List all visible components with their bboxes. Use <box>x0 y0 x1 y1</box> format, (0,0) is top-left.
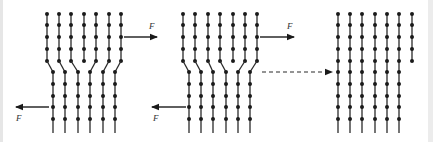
atom-dot <box>336 117 340 121</box>
atom-dot <box>336 82 340 86</box>
atom-dot <box>76 105 80 109</box>
atom-dot <box>181 47 185 51</box>
atom-dot <box>51 70 55 74</box>
atom-dot <box>385 82 389 86</box>
atom-dot <box>199 94 203 98</box>
atom-dot <box>101 117 105 121</box>
atom-dot <box>373 117 377 121</box>
atom-dot <box>397 47 401 51</box>
atom-dot <box>218 23 222 27</box>
atom-dot <box>69 23 73 27</box>
atom-dot <box>348 35 352 39</box>
force-label: F <box>152 113 159 123</box>
atom-dot <box>360 94 364 98</box>
atom-dot <box>248 82 252 86</box>
atom-dot <box>57 23 61 27</box>
atom-dot <box>107 47 111 51</box>
atom-dot <box>69 12 73 16</box>
atom-dot <box>57 47 61 51</box>
atom-dot <box>45 35 49 39</box>
atom-dot <box>348 59 352 63</box>
atom-dot <box>385 12 389 16</box>
atom-dot <box>211 117 215 121</box>
atom-dot <box>206 23 210 27</box>
atom-dot <box>187 117 191 121</box>
atom-dot <box>206 47 210 51</box>
atom-dot <box>218 12 222 16</box>
atom-dot <box>107 12 111 16</box>
atom-dot <box>397 12 401 16</box>
atom-dot <box>113 105 117 109</box>
atom-dot <box>410 59 414 63</box>
atom-dot <box>348 94 352 98</box>
atom-dot <box>181 23 185 27</box>
atom-dot <box>63 82 67 86</box>
atom-dot <box>348 47 352 51</box>
atom-dot <box>397 117 401 121</box>
atom-dot <box>243 12 247 16</box>
atom-dot <box>348 105 352 109</box>
atom-dot <box>76 82 80 86</box>
atom-dot <box>336 47 340 51</box>
atom-dot <box>94 23 98 27</box>
atom-dot <box>76 117 80 121</box>
atom-dot <box>119 47 123 51</box>
atom-dot <box>397 23 401 27</box>
atom-dot <box>397 105 401 109</box>
atom-dot <box>94 12 98 16</box>
panel-slip-step-formed <box>336 12 414 133</box>
atom-dot <box>397 35 401 39</box>
atom-dot <box>348 117 352 121</box>
atom-dot <box>45 12 49 16</box>
atom-dot <box>199 105 203 109</box>
atom-dot <box>397 94 401 98</box>
atom-dot <box>397 82 401 86</box>
atom-dot <box>410 35 414 39</box>
atom-dot <box>255 47 259 51</box>
atom-dot <box>193 47 197 51</box>
atom-dot <box>51 94 55 98</box>
atom-dot <box>397 70 401 74</box>
atom-dot <box>255 12 259 16</box>
atom-dot <box>187 82 191 86</box>
atom-dot <box>373 105 377 109</box>
atom-dot <box>88 82 92 86</box>
atom-dot <box>101 94 105 98</box>
panel-initial-dislocation: FF <box>15 12 157 133</box>
atom-dot <box>218 35 222 39</box>
atom-dot <box>193 12 197 16</box>
atom-dot <box>63 70 67 74</box>
atom-dot <box>211 105 215 109</box>
atom-dot <box>187 105 191 109</box>
atom-dot <box>113 70 117 74</box>
atom-dot <box>373 70 377 74</box>
atom-dot <box>199 82 203 86</box>
atom-dot <box>101 105 105 109</box>
atom-dot <box>101 70 105 74</box>
atom-dot <box>63 105 67 109</box>
force-label: F <box>15 113 22 123</box>
atom-dot <box>231 23 235 27</box>
atom-dot <box>113 117 117 121</box>
atom-dot <box>410 12 414 16</box>
atom-dot <box>373 35 377 39</box>
atom-dot <box>82 35 86 39</box>
atom-dot <box>181 35 185 39</box>
atom-dot <box>218 47 222 51</box>
atom-dot <box>248 70 252 74</box>
force-label: F <box>148 21 155 31</box>
atom-dot <box>224 70 228 74</box>
atom-dot <box>248 94 252 98</box>
atom-dot <box>69 35 73 39</box>
atom-dot <box>336 105 340 109</box>
atom-dot <box>385 35 389 39</box>
atom-dot <box>211 94 215 98</box>
atom-dot <box>231 12 235 16</box>
atom-dot <box>113 82 117 86</box>
atom-dot <box>236 70 240 74</box>
atom-dot <box>82 12 86 16</box>
atom-dot <box>231 59 235 63</box>
atom-dot <box>336 59 340 63</box>
atom-dot <box>224 82 228 86</box>
atom-dot <box>45 23 49 27</box>
